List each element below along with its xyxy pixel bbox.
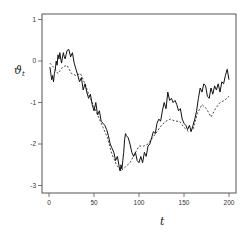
y-tick-label: 1 [32, 16, 36, 23]
smoothed-series-line [50, 63, 229, 171]
y-tick-label: 0 [32, 57, 36, 64]
x-axis-label: t [160, 215, 165, 228]
y-axis-label: ϑt [14, 64, 25, 78]
x-tick-label: 0 [47, 199, 51, 206]
plot-frame [42, 14, 236, 193]
x-axis-ticks: 050100150200 [47, 193, 235, 206]
y-tick-label: -2 [30, 140, 36, 147]
line-chart: 10-1-2-3 050100150200 ϑt t [0, 0, 249, 240]
x-tick-label: 150 [179, 199, 190, 206]
y-tick-label: -1 [30, 99, 36, 106]
x-tick-label: 50 [90, 199, 98, 206]
y-tick-label: -3 [30, 182, 36, 189]
observed-series-line [50, 49, 229, 171]
x-tick-label: 100 [134, 199, 145, 206]
x-tick-label: 200 [224, 199, 235, 206]
y-axis-ticks: 10-1-2-3 [30, 16, 42, 189]
